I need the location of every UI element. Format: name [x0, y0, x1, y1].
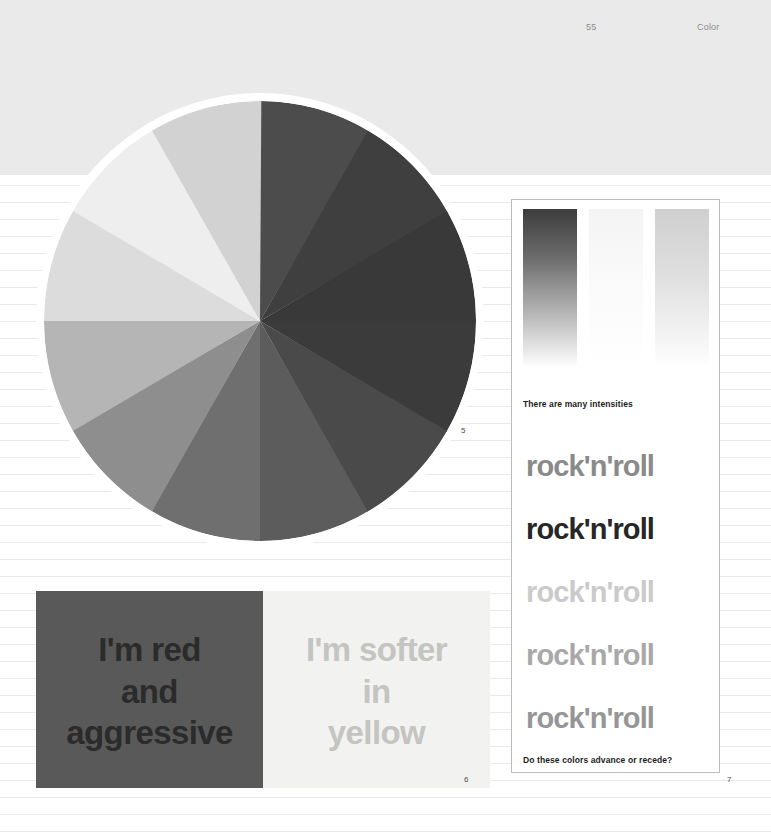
figure-red-yellow-pair: I'm red and aggressive I'm softer in yel… — [36, 591, 491, 788]
yellow-panel-line-1: I'm softer — [306, 629, 447, 671]
gradient-bar-row — [523, 209, 709, 367]
color-wheel-svg — [44, 101, 476, 541]
rock-line-4: rock'n'roll — [526, 641, 709, 670]
red-panel: I'm red and aggressive — [36, 591, 263, 788]
color-wheel — [44, 101, 476, 541]
rock-line-5: rock'n'roll — [526, 704, 709, 733]
rock-n-roll-stack: rock'n'roll rock'n'roll rock'n'roll rock… — [526, 452, 709, 733]
figure-number-7: 7 — [727, 775, 731, 784]
red-panel-line-2: and — [121, 671, 178, 713]
rock-line-2: rock'n'roll — [526, 515, 709, 544]
yellow-panel-line-3: yellow — [328, 712, 425, 754]
gradient-bar-dark — [523, 209, 577, 367]
rock-line-3: rock'n'roll — [526, 578, 709, 607]
page-canvas: 55 Color 5 I'm red and aggressive I'm so… — [0, 0, 771, 836]
page-folio-number: 55 — [586, 22, 596, 32]
figure-number-5: 5 — [461, 426, 465, 435]
running-head: 55 Color — [0, 22, 771, 38]
figure-color-wheel — [36, 93, 484, 549]
section-title: Color — [697, 22, 720, 32]
figure-number-6: 6 — [464, 775, 468, 784]
caption-advance-recede: Do these colors advance or recede? — [523, 755, 672, 765]
gradient-bar-pale — [589, 209, 643, 367]
red-panel-line-3: aggressive — [66, 712, 232, 754]
yellow-panel: I'm softer in yellow — [263, 591, 490, 788]
rock-line-1: rock'n'roll — [526, 452, 709, 481]
figure-intensities-card: There are many intensities rock'n'roll r… — [511, 199, 720, 773]
yellow-panel-line-2: in — [362, 671, 390, 713]
gradient-bar-mid — [655, 209, 709, 367]
red-panel-line-1: I'm red — [98, 629, 201, 671]
caption-intensities: There are many intensities — [523, 399, 633, 409]
